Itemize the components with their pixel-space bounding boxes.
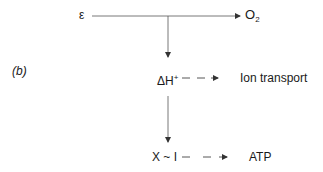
proton-gradient-base: ΔH [157, 74, 174, 88]
node-proton-gradient: ΔH+ [157, 71, 178, 88]
proton-gradient-superscript: + [174, 73, 179, 82]
oxygen-subscript: 2 [255, 15, 259, 24]
node-intermediate: X ~ I [152, 150, 177, 164]
node-epsilon: ε [79, 8, 84, 22]
node-ion-transport: Ion transport [240, 71, 307, 85]
panel-label: (b) [12, 64, 27, 78]
oxygen-base: O [245, 7, 255, 22]
node-atp: ATP [249, 150, 271, 164]
node-oxygen: O2 [245, 8, 260, 27]
